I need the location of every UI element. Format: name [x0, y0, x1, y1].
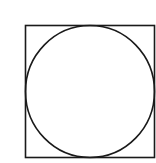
circle-outline — [26, 26, 155, 158]
inscribed-circle-diagram — [0, 0, 156, 163]
